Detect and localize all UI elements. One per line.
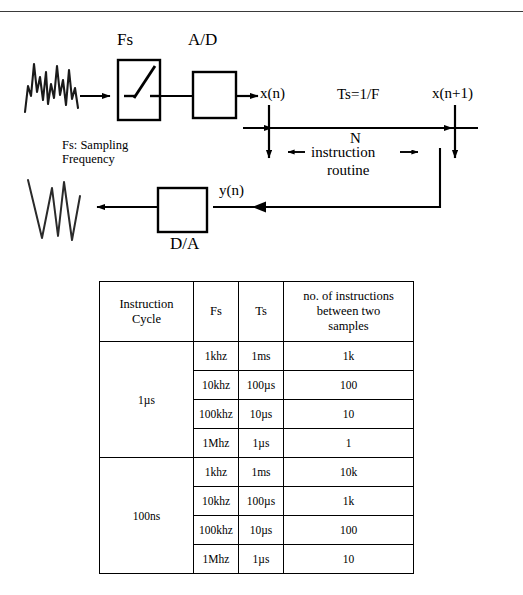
count-cell: 1k xyxy=(284,487,414,516)
table-row: 100ns 1khz 1ms 10k xyxy=(100,458,414,487)
count-cell: 10 xyxy=(284,400,414,429)
routine-label-instruction: instruction xyxy=(311,144,375,161)
signal-label-xn: x(n) xyxy=(260,85,285,102)
input-waveform-icon xyxy=(25,64,78,112)
header-instruction-count-line1: no. of instructions xyxy=(284,289,413,304)
adc-label: A/D xyxy=(188,30,217,49)
sampling-frequency-legend-line2: Frequency xyxy=(62,152,115,166)
sampler-label: Fs xyxy=(117,30,133,49)
ts-cell: 1µs xyxy=(239,545,284,574)
header-fs: Fs xyxy=(194,282,239,342)
count-cell: 1 xyxy=(284,429,414,458)
ts-cell: 10µs xyxy=(239,516,284,545)
cycle-cell-group-0: 1µs xyxy=(100,342,194,458)
count-cell: 100 xyxy=(284,516,414,545)
count-cell: 1k xyxy=(284,342,414,371)
ts-cell: 100µs xyxy=(239,487,284,516)
instruction-cycle-table: Instruction Cycle Fs Ts no. of instructi… xyxy=(99,281,414,574)
fs-cell: 10khz xyxy=(194,487,239,516)
signal-label-xn-plus-1: x(n+1) xyxy=(432,85,473,102)
ts-cell: 10µs xyxy=(239,400,284,429)
fs-cell: 10khz xyxy=(194,371,239,400)
header-instruction-count-line3: samples xyxy=(284,319,413,334)
output-waveform-icon xyxy=(28,180,80,240)
count-cell: 10 xyxy=(284,545,414,574)
header-instruction-cycle-line1: Instruction xyxy=(100,297,193,312)
fs-cell: 1khz xyxy=(194,342,239,371)
fs-cell: 100khz xyxy=(194,516,239,545)
header-instruction-count-line2: between two xyxy=(284,304,413,319)
count-cell: 100 xyxy=(284,371,414,400)
signal-label-yn: y(n) xyxy=(219,182,244,199)
fs-cell: 1khz xyxy=(194,458,239,487)
count-cell: 10k xyxy=(284,458,414,487)
fs-cell: 1Mhz xyxy=(194,545,239,574)
routine-label-routine: routine xyxy=(327,162,370,179)
table-row: 1µs 1khz 1ms 1k xyxy=(100,342,414,371)
header-instruction-cycle: Instruction Cycle xyxy=(100,282,194,342)
ts-cell: 100µs xyxy=(239,371,284,400)
ts-cell: 1µs xyxy=(239,429,284,458)
sampling-period-label: Ts=1/F xyxy=(337,86,379,103)
ts-cell: 1ms xyxy=(239,458,284,487)
header-instruction-count: no. of instructions between two samples xyxy=(284,282,414,342)
page-canvas: Fs A/D D/A Fs: Sampling Frequency x(n) x… xyxy=(0,0,523,595)
fs-cell: 100khz xyxy=(194,400,239,429)
sampling-frequency-legend-line1: Fs: Sampling xyxy=(62,138,128,152)
dac-label: D/A xyxy=(170,234,199,253)
table-header-row: Instruction Cycle Fs Ts no. of instructi… xyxy=(100,282,414,342)
cycle-cell-group-1: 100ns xyxy=(100,458,194,574)
header-ts: Ts xyxy=(239,282,284,342)
ts-cell: 1ms xyxy=(239,342,284,371)
fs-cell: 1Mhz xyxy=(194,429,239,458)
header-instruction-cycle-line2: Cycle xyxy=(100,312,193,327)
